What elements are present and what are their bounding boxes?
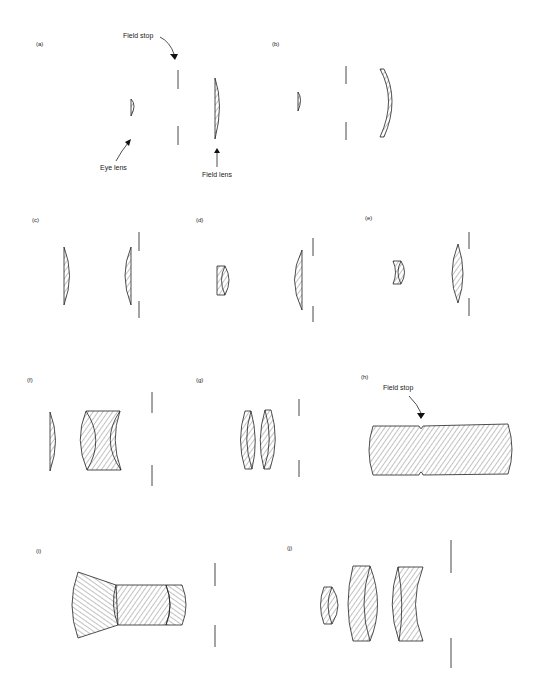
panel-a: (a) Field stop Eye lens Field lens — [36, 32, 232, 178]
panel-h: (h) Field stop — [361, 374, 512, 475]
panel-label-d: (d) — [196, 217, 203, 223]
eye-lens — [131, 99, 134, 116]
panel-label-c: (c) — [32, 217, 39, 223]
panel-c: (c) — [32, 217, 139, 318]
panel-j: (j) — [287, 540, 451, 668]
field-lens — [215, 78, 220, 139]
field-lens-arrowhead-icon — [214, 148, 220, 153]
lens-element-3 — [392, 567, 423, 641]
eye-lens — [64, 247, 70, 305]
eye-lens-doublet — [393, 261, 405, 284]
lens-element-2 — [348, 566, 378, 641]
panel-label-b: (b) — [272, 41, 279, 47]
eye-lens — [50, 412, 56, 471]
annotation-field-stop: Field stop — [123, 32, 153, 40]
eye-lens — [298, 92, 301, 111]
eye-lens-arrow-line — [116, 143, 128, 161]
field-stop-arrow-line — [409, 396, 421, 413]
panel-label-e: (e) — [365, 215, 372, 221]
annotation-field-stop: Field stop — [383, 384, 413, 392]
lens-element-1 — [321, 587, 339, 624]
middle-lens-element — [113, 585, 170, 625]
panel-label-i: (i) — [36, 548, 41, 554]
panel-i: (i) — [36, 548, 215, 647]
panel-e: (e) — [365, 215, 469, 316]
panel-label-a: (a) — [36, 41, 43, 47]
field-stop-arrowhead-icon — [417, 413, 425, 419]
panel-f: (f) — [27, 377, 152, 486]
annotation-field-lens: Field lens — [202, 171, 232, 178]
field-lens — [125, 247, 131, 305]
panel-label-f: (f) — [27, 377, 33, 383]
panel-d: (d) — [196, 217, 313, 322]
annotation-eye-lens: Eye lens — [100, 164, 127, 172]
panel-b: (b) — [272, 41, 392, 140]
solid-eyepiece-lens — [369, 424, 512, 475]
field-lens-biconvex — [452, 244, 463, 303]
panel-label-j: (j) — [287, 545, 292, 551]
panel-label-h: (h) — [361, 374, 368, 380]
field-stop-arrowhead-icon — [170, 54, 178, 60]
doublet-lens-1 — [241, 411, 256, 469]
eye-lens-element — [72, 572, 118, 638]
doublet-lens-2 — [260, 410, 275, 469]
field-lens — [295, 250, 303, 310]
panel-g: (g) — [196, 377, 299, 477]
field-lens-meniscus — [380, 69, 392, 137]
panel-label-g: (g) — [196, 377, 203, 383]
field-stop-arrow-line — [160, 37, 174, 54]
eyepiece-diagram: (a) Field stop Eye lens Field lens (b) (… — [0, 0, 534, 683]
